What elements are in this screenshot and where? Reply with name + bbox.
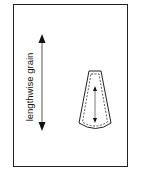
grainline-arrow bbox=[93, 86, 97, 123]
pattern-piece bbox=[79, 71, 111, 129]
lengthwise-grain-arrow bbox=[39, 34, 46, 131]
grain-label: lengthwise grain bbox=[24, 53, 35, 122]
diagram-graphics bbox=[0, 0, 141, 177]
